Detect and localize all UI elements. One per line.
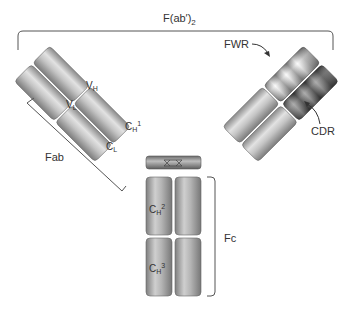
fab-label: Fab <box>45 151 64 163</box>
fc-label: Fc <box>224 232 237 244</box>
ch3-domain-right <box>175 238 201 296</box>
fwr-arrowhead <box>264 51 270 57</box>
fc-bracket <box>207 177 215 296</box>
cl-label: CL <box>106 141 117 153</box>
fwr-label: FWR <box>224 38 249 50</box>
cdr-label: CDR <box>311 125 335 137</box>
ch1-label: CH1 <box>125 120 141 133</box>
antibody-diagram: F(ab′)2 VH VL CH1 CL Fab <box>0 0 353 316</box>
hinge-region <box>146 156 201 169</box>
vl-label: VL <box>66 99 77 111</box>
vh-label: VH <box>86 80 98 92</box>
fab2-bracket <box>18 31 333 50</box>
ch2-domain-right <box>175 177 201 235</box>
fab2-label: F(ab′)2 <box>163 12 196 27</box>
fwr-arrow <box>252 44 268 53</box>
